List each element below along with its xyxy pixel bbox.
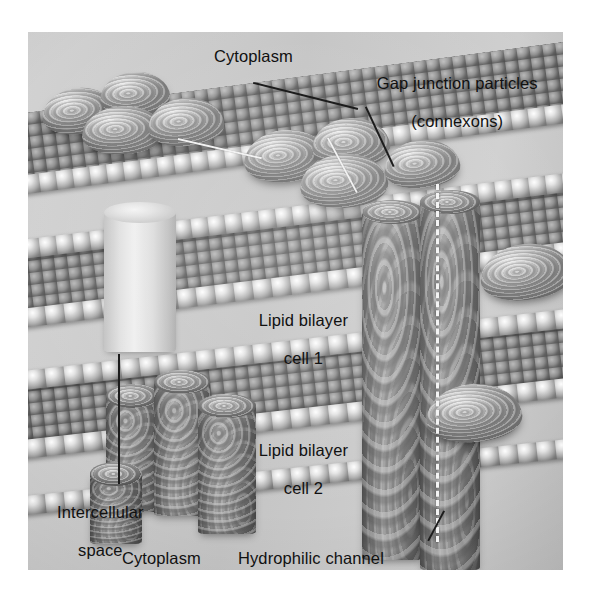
label-connexons-line1: Gap junction particles [377, 74, 538, 92]
gap-junction-figure: Cytoplasm Gap junction particles (connex… [0, 0, 590, 606]
label-cytoplasm-bottom: Cytoplasm [122, 549, 201, 568]
label-bilayer2-line2: cell 2 [284, 479, 323, 497]
label-intercellular-line1: Intercellular [57, 503, 144, 521]
leader-line-intercellular-space [118, 354, 120, 484]
label-connexons-line2: (connexons) [411, 112, 503, 130]
label-bilayer1-line1: Lipid bilayer [259, 311, 348, 329]
label-intercellular-line2: space [78, 541, 123, 559]
label-lipid-bilayer-cell1: Lipid bilayer cell 1 [234, 292, 354, 387]
hydrophilic-channel-axis [436, 184, 439, 542]
label-gap-junction-particles: Gap junction particles (connexons) [358, 55, 538, 150]
label-bilayer1-line2: cell 1 [284, 349, 323, 367]
label-bilayer2-line1: Lipid bilayer [259, 441, 348, 459]
label-cytoplasm-top: Cytoplasm [214, 47, 293, 66]
label-lipid-bilayer-cell2: Lipid bilayer cell 2 [234, 422, 354, 517]
label-hydrophilic-channel: Hydrophilic channel [238, 549, 384, 568]
